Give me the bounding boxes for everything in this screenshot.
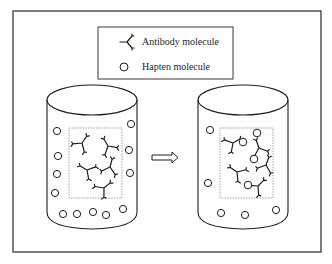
hapten-icon (53, 127, 60, 134)
bound-hapten-icon (250, 155, 258, 163)
hapten-icon (217, 209, 224, 216)
hapten-icon (54, 152, 61, 159)
hapten-icon (59, 210, 66, 217)
hapten-icon (204, 179, 211, 186)
hapten-icon (206, 126, 213, 133)
antibody-icon (69, 130, 95, 156)
antibody-icon (99, 155, 121, 178)
antibody-icon (247, 136, 270, 160)
hapten-icon (125, 146, 132, 153)
bound-hapten-icon (253, 129, 261, 137)
cylinder-top-ellipse (198, 85, 288, 115)
cylinder-after (198, 85, 288, 229)
hapten-legend-icon (120, 63, 128, 71)
antibody-icon (95, 133, 120, 158)
hapten-icon (73, 210, 80, 217)
hapten-icon (241, 211, 248, 218)
antibody-icon (74, 157, 99, 182)
antibody-icon (91, 175, 117, 201)
bound-hapten-icon (239, 138, 247, 146)
hapten-icon (53, 170, 60, 177)
hollow-right-arrow-icon (152, 152, 178, 163)
hapten-icon (126, 169, 133, 176)
legend-label-hapten: Hapten molecule (142, 61, 211, 72)
antibody-icon (224, 159, 250, 185)
hapten-icon (127, 120, 134, 127)
hapten-icon (89, 208, 96, 215)
hapten-icon (51, 189, 58, 196)
legend: Antibody molecule Hapten molecule (98, 27, 233, 79)
cylinder-before (47, 85, 137, 229)
hapten-icon (102, 211, 109, 218)
diagram-canvas: Antibody molecule Hapten molecule (0, 0, 332, 264)
legend-label-antibody: Antibody molecule (142, 36, 219, 47)
hapten-icon (272, 206, 279, 213)
antibody-region-dashed (69, 128, 122, 198)
bound-hapten-icon (244, 181, 252, 189)
cylinder-top-ellipse (47, 85, 137, 115)
diagram-svg: Antibody molecule Hapten molecule (0, 0, 332, 264)
hapten-icon (119, 205, 126, 212)
antibody-icon (254, 153, 277, 177)
